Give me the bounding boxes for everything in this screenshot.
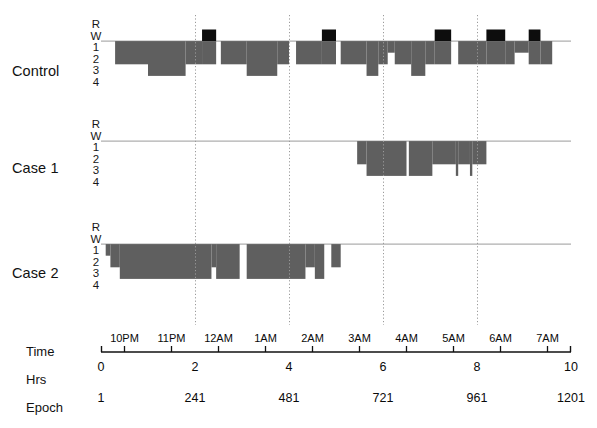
row-label-case-2: Case 2 — [12, 265, 59, 281]
gridlines-overlay — [101, 15, 571, 325]
bottom-axis: Time Hrs Epoch 10PM11PM12AM1AM2AM3AM4AM5… — [0, 330, 597, 428]
row-label-control: Control — [12, 63, 59, 79]
row-label-case-1: Case 1 — [12, 160, 59, 176]
